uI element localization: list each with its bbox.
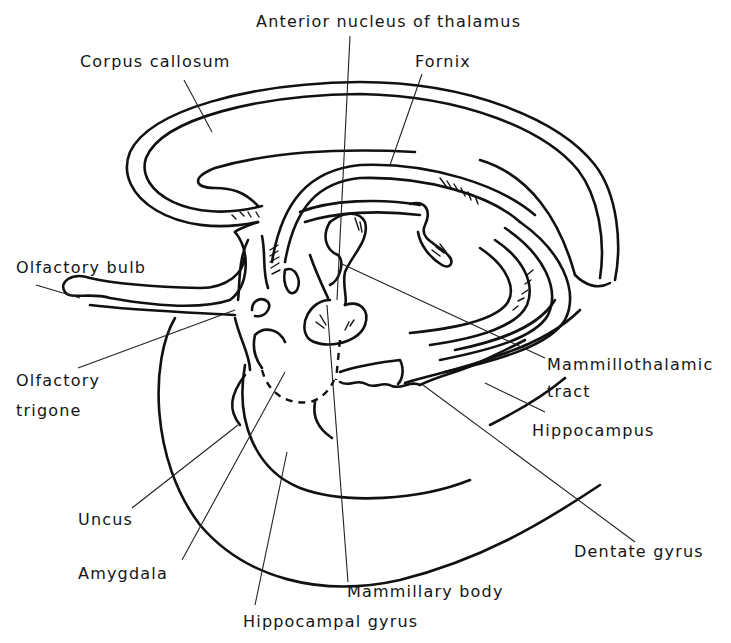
label-corpus-callosum: Corpus callosum [80, 52, 231, 72]
label-hippocampus: Hippocampus [532, 421, 655, 441]
label-uncus: Uncus [78, 510, 133, 530]
label-olfactory-bulb: Olfactory bulb [16, 258, 146, 278]
thalamus-shape [304, 203, 451, 344]
temporal-lobe-shape [159, 300, 600, 586]
label-fornix: Fornix [415, 52, 471, 72]
label-hippocampal-gyrus: Hippocampal gyrus [243, 612, 418, 632]
limbic-system-diagram: Anterior nucleus of thalamus Corpus call… [0, 0, 731, 643]
corpus-callosum-shape [127, 82, 618, 286]
label-mammillothalamic-tract-line2: tract [547, 382, 591, 402]
label-olfactory-trigone-line1: Olfactory [16, 371, 100, 391]
label-anterior-nucleus-of-thalamus: Anterior nucleus of thalamus [256, 12, 521, 32]
label-amygdala: Amygdala [78, 564, 168, 584]
label-dentate-gyrus: Dentate gyrus [574, 542, 704, 562]
label-mammillary-body: Mammillary body [347, 582, 504, 602]
label-olfactory-trigone-line2: trigone [16, 401, 82, 421]
label-mammillothalamic-tract-line1: Mammillothalamic [547, 355, 713, 375]
